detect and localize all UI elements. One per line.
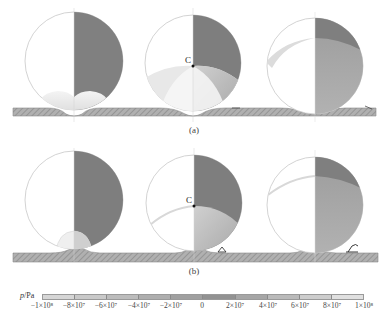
colorbar-segment	[268, 295, 300, 299]
panel-a2	[145, 8, 243, 122]
colorbar-tick: 8×10⁷	[323, 301, 341, 310]
panel-a1	[25, 8, 124, 122]
colorbar-tick: −2×10⁷	[160, 301, 182, 310]
colorbar-segment	[75, 295, 107, 299]
pressure-contour-figure: C C (a) (b) p/Pa −1×10⁸ −8×10⁷ −6×10⁷ −4…	[0, 0, 388, 318]
colorbar-segment	[203, 295, 235, 299]
row-b-label: (b)	[189, 266, 200, 276]
colorbar-segment	[139, 295, 171, 299]
point-c-label-b: C	[186, 195, 192, 205]
row-a	[13, 8, 376, 125]
colorbar-unit: /Pa	[24, 291, 34, 300]
panel-b1	[25, 148, 124, 262]
colorbar-title: p/Pa	[20, 291, 34, 300]
colorbar-tick: −6×10⁷	[95, 301, 117, 310]
colorbar-segment	[332, 295, 363, 299]
colorbar-tick: 0	[200, 301, 204, 310]
colorbar	[42, 294, 364, 300]
panel-b3	[267, 150, 365, 265]
colorbar-tick: 2×10⁷	[226, 301, 244, 310]
colorbar-tick: 6×10⁷	[291, 301, 309, 310]
colorbar-tick: −1×10⁸	[31, 301, 53, 310]
colorbar-segment	[236, 295, 268, 299]
panel-b2	[146, 148, 244, 262]
row-b	[13, 148, 378, 265]
row-a-label: (a)	[189, 125, 199, 135]
colorbar-tick: 4×10⁷	[259, 301, 277, 310]
colorbar-segment	[43, 295, 75, 299]
colorbar-segment	[300, 295, 332, 299]
colorbar-tick: −4×10⁷	[128, 301, 150, 310]
colorbar-segment	[171, 295, 203, 299]
colorbar-tick: 1×10⁸	[355, 301, 373, 310]
colorbar-segment	[107, 295, 139, 299]
colorbar-tick: −8×10⁷	[63, 301, 85, 310]
point-c-label-a: C	[185, 55, 191, 65]
